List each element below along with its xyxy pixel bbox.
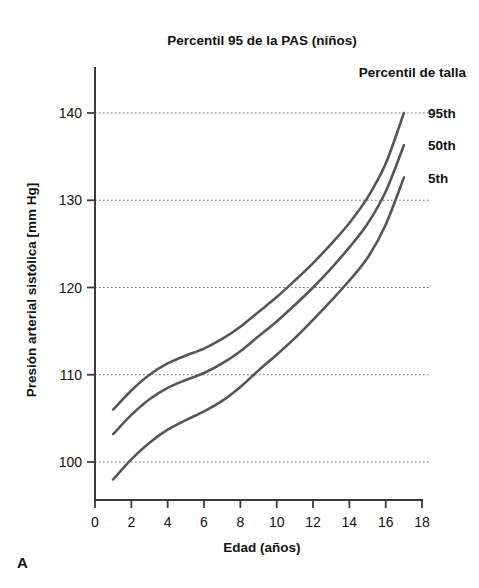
curve-95th bbox=[113, 113, 404, 410]
x-axis: 024681012141618 bbox=[91, 500, 430, 530]
y-tick-label-100: 100 bbox=[59, 454, 83, 470]
y-axis-label: Presión arterial sistólica [mm Hg] bbox=[24, 183, 39, 398]
x-tick-label-14: 14 bbox=[342, 514, 358, 530]
curve-5th bbox=[113, 178, 404, 480]
legend-title: Percentil de talla bbox=[359, 65, 467, 80]
series-labels: 95th50th5th bbox=[428, 106, 456, 186]
series-label-95th: 95th bbox=[428, 106, 456, 121]
y-tick-label-120: 120 bbox=[59, 280, 83, 296]
x-tick-label-0: 0 bbox=[91, 514, 99, 530]
x-tick-label-2: 2 bbox=[127, 514, 135, 530]
figure-panel-a: Percentil 95 de la PAS (niños) Percentil… bbox=[0, 0, 479, 588]
x-tick-label-18: 18 bbox=[414, 514, 430, 530]
y-tick-label-110: 110 bbox=[60, 367, 83, 383]
x-tick-label-8: 8 bbox=[236, 514, 244, 530]
x-tick-label-16: 16 bbox=[378, 514, 394, 530]
x-tick-label-12: 12 bbox=[305, 514, 321, 530]
x-tick-label-4: 4 bbox=[164, 514, 172, 530]
data-curves bbox=[113, 113, 404, 479]
y-axis: 100110120130140 bbox=[59, 68, 95, 500]
sbp-percentile-chart: Percentil 95 de la PAS (niños) Percentil… bbox=[0, 0, 479, 588]
y-tick-label-130: 130 bbox=[59, 192, 83, 208]
series-label-50th: 50th bbox=[428, 138, 456, 153]
chart-title: Percentil 95 de la PAS (niños) bbox=[167, 33, 357, 48]
x-tick-label-10: 10 bbox=[269, 514, 285, 530]
x-axis-label: Edad (años) bbox=[223, 540, 300, 555]
curve-50th bbox=[113, 145, 404, 434]
panel-label: A bbox=[17, 554, 28, 571]
x-tick-label-6: 6 bbox=[200, 514, 208, 530]
y-tick-label-140: 140 bbox=[59, 105, 83, 121]
gridlines bbox=[95, 113, 430, 462]
series-label-5th: 5th bbox=[428, 171, 448, 186]
